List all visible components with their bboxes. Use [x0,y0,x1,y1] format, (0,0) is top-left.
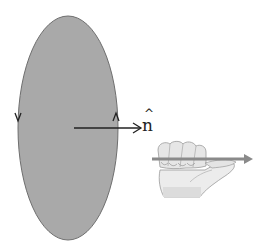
right-hand-icon [158,141,236,197]
diagram-canvas [0,0,263,252]
normal-vector-label: n [142,117,153,134]
